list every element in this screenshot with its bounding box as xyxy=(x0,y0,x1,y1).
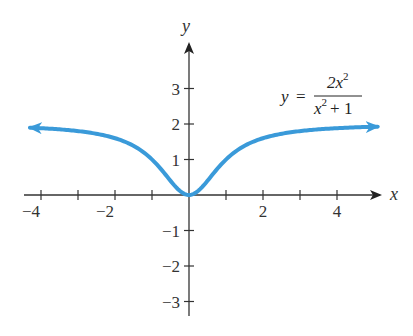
y-tick-label: 1 xyxy=(172,151,181,170)
equation-denominator: x2+ 1 xyxy=(313,96,352,118)
equation-lhs: y xyxy=(279,87,289,106)
y-tick-label: 2 xyxy=(172,115,181,134)
y-tick-label: −2 xyxy=(162,257,180,276)
y-tick-label: 3 xyxy=(172,80,181,99)
x-tick-label: 2 xyxy=(259,202,268,221)
y-tick-label: −3 xyxy=(162,293,180,312)
denominator-exp: 2 xyxy=(322,96,328,108)
x-tick-label: −2 xyxy=(96,202,114,221)
function-curve xyxy=(30,127,378,195)
y-tick-label: −1 xyxy=(162,222,180,241)
equation-equals: = xyxy=(296,87,306,106)
x-tick-label: 4 xyxy=(333,202,342,221)
equation-numerator: 2x2 xyxy=(327,70,349,92)
x-axis-tick-labels: −4−224 xyxy=(22,202,342,221)
numerator-coef: 2x xyxy=(327,73,344,92)
equation-label: y = 2x2 x2+ 1 xyxy=(279,70,362,118)
y-axis-label: y xyxy=(180,16,190,36)
x-tick-label: −4 xyxy=(22,202,41,221)
function-plot: −4−224 −3−2−1123 x y y = 2x2 x2+ 1 xyxy=(0,0,413,336)
numerator-exp: 2 xyxy=(343,70,349,82)
x-axis-label: x xyxy=(389,184,398,204)
denominator-rest: + 1 xyxy=(330,99,352,118)
